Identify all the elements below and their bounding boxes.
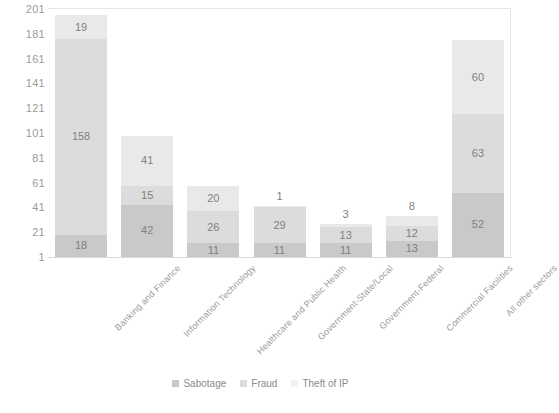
y-axis-tick: 161 (5, 53, 45, 64)
bar-segment-sabotage[interactable]: 11 (320, 243, 372, 257)
bar-segment-value: 11 (208, 245, 219, 256)
bar-segment-value: 13 (406, 243, 418, 254)
bar-segment-value: 15 (141, 190, 153, 201)
y-axis-tick: 121 (5, 103, 45, 114)
bar-total-label: 8 (409, 201, 415, 212)
bar-group[interactable]: 111333 (320, 224, 372, 257)
bar-segment-sabotage[interactable]: 11 (187, 243, 239, 257)
y-axis-tick: 181 (5, 28, 45, 39)
bar-segment-theft-of-ip[interactable]: 8 (386, 216, 438, 226)
bar-segment-value: 52 (472, 219, 484, 230)
y-axis-tick: 141 (5, 78, 45, 89)
legend-label: Theft of IP (302, 378, 348, 389)
legend-label: Sabotage (183, 378, 226, 389)
bar-segment-fraud[interactable]: 29 (254, 207, 306, 243)
plot-area: 1815819421541112620112911111333131288526… (48, 8, 511, 258)
bar-group[interactable]: 112620 (187, 186, 239, 257)
bar-total-label: 1 (276, 191, 282, 202)
bar-segment-value: 19 (75, 22, 87, 33)
bar-segment-fraud[interactable]: 13 (320, 227, 372, 243)
y-axis-tick: 201 (5, 4, 45, 15)
fraud-swatch (240, 380, 247, 387)
bar-segment-theft-of-ip[interactable]: 60 (452, 40, 504, 114)
bar-segment-sabotage[interactable]: 52 (452, 193, 504, 257)
x-axis-label: Banking and Finance (113, 263, 183, 333)
theft-of-ip-swatch (291, 380, 298, 387)
bars-layer: 1815819421541112620112911111333131288526… (48, 8, 511, 258)
bar-segment-theft-of-ip[interactable]: 20 (187, 186, 239, 211)
bar-segment-value: 13 (340, 230, 352, 241)
y-axis-tick: 61 (5, 177, 45, 188)
legend-item[interactable]: Sabotage (172, 378, 226, 389)
bar-segment-theft-of-ip[interactable]: 19 (55, 15, 107, 39)
bar-segment-value: 26 (207, 222, 219, 233)
bar-segment-value: 158 (72, 131, 90, 142)
bar-segment-value: 11 (340, 245, 351, 256)
bar-segment-sabotage[interactable]: 18 (55, 235, 107, 257)
legend-item[interactable]: Theft of IP (291, 378, 348, 389)
bar-segment-theft-of-ip[interactable]: 3 (320, 224, 372, 228)
bar-segment-sabotage[interactable]: 13 (386, 241, 438, 257)
y-axis-tick: 101 (5, 128, 45, 139)
x-axis-label: Commercial Facilities (444, 263, 515, 334)
bar-segment-value: 63 (472, 148, 484, 159)
bar-segment-sabotage[interactable]: 42 (121, 205, 173, 257)
y-axis-tick: 21 (5, 227, 45, 238)
bar-group[interactable]: 131288 (386, 216, 438, 257)
bar-segment-sabotage[interactable]: 11 (254, 243, 306, 257)
bar-segment-fraud[interactable]: 15 (121, 186, 173, 205)
bar-group[interactable]: 1815819 (55, 15, 107, 257)
bar-segment-fraud[interactable]: 12 (386, 226, 438, 241)
bar-segment-theft-of-ip[interactable]: 41 (121, 136, 173, 187)
bar-segment-fraud[interactable]: 158 (55, 39, 107, 235)
bar-segment-theft-of-ip[interactable]: 1 (254, 206, 306, 207)
y-axis-tick: 81 (5, 152, 45, 163)
bar-group[interactable]: 112911 (254, 206, 306, 257)
x-axis-label: Information Technology (182, 263, 258, 339)
bar-segment-value: 41 (141, 155, 153, 166)
bar-segment-value: 29 (273, 220, 285, 231)
bar-group[interactable]: 421541 (121, 136, 173, 258)
x-axis-labels: Banking and FinanceInformation Technolog… (48, 259, 511, 369)
bar-group[interactable]: 526360 (452, 40, 504, 257)
sabotage-swatch (172, 380, 179, 387)
bar-segment-value: 42 (141, 225, 153, 236)
x-axis-label: Healthcare and Public Health (255, 263, 348, 356)
bar-segment-fraud[interactable]: 26 (187, 211, 239, 243)
bar-segment-value: 20 (207, 193, 219, 204)
legend-label: Fraud (251, 378, 277, 389)
bar-segment-value: 18 (75, 240, 87, 251)
bar-total-label: 3 (343, 209, 349, 220)
legend-item[interactable]: Fraud (240, 378, 277, 389)
bar-segment-value: 60 (472, 72, 484, 83)
bar-segment-value: 11 (274, 245, 285, 256)
y-axis-tick: 41 (5, 202, 45, 213)
bar-segment-value: 12 (406, 228, 418, 239)
chart-legend: SabotageFraudTheft of IP (0, 378, 521, 389)
bar-segment-fraud[interactable]: 63 (452, 114, 504, 192)
y-axis-tick: 1 (5, 252, 45, 263)
